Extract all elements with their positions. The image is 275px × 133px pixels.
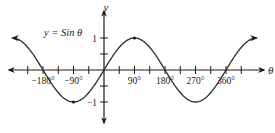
marked-point (72, 100, 75, 103)
equation-annotation: y = Sin θ (43, 27, 82, 38)
x-tick-label: 180° (156, 76, 174, 86)
x-tick-label: 90° (128, 76, 142, 86)
x-axis-label: θ (268, 64, 274, 76)
x-tick-labels: −180°−90°90°180°270°360° (31, 76, 235, 86)
sine-chart: −180°−90°90°180°270°360° 1−1 y θ y = Sin… (0, 0, 275, 133)
y-tick-label: 1 (92, 34, 97, 44)
marked-point (133, 36, 136, 39)
x-tick-label: −180° (31, 76, 55, 86)
x-tick-label: 360° (217, 76, 235, 86)
y-tick-label: −1 (87, 98, 97, 108)
y-axis-label: y (103, 1, 109, 13)
x-tick-label: 270° (186, 76, 204, 86)
x-tick-label: −90° (64, 76, 83, 86)
